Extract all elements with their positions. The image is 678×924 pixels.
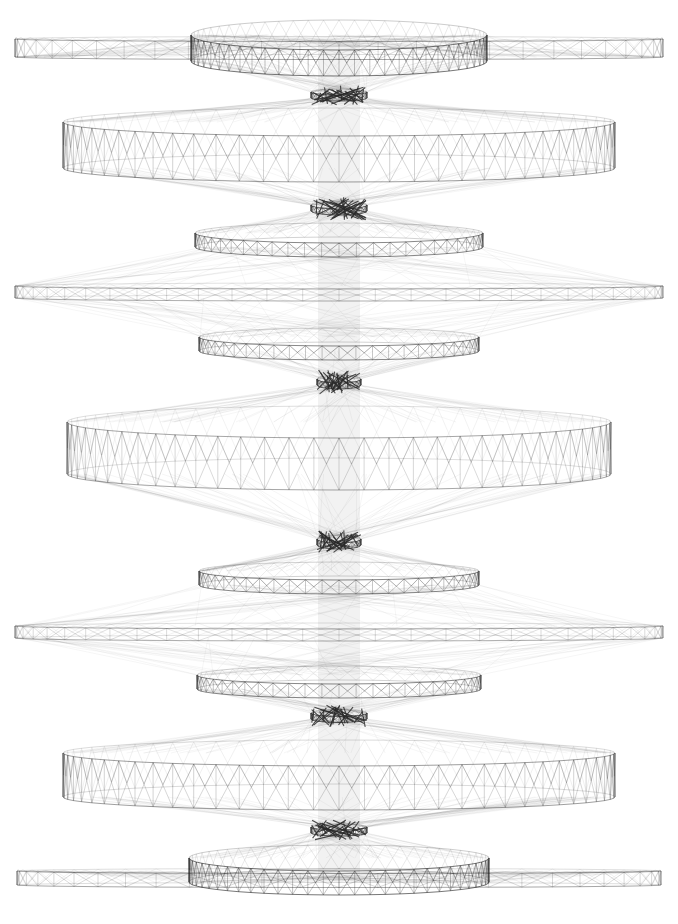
network-graph: [0, 0, 678, 924]
network-graph-canvas: [0, 0, 678, 924]
